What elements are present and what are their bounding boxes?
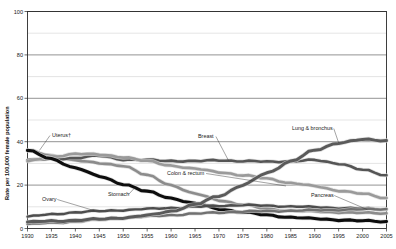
x-tick-label: 1945 bbox=[93, 233, 105, 239]
x-tick-label: 1950 bbox=[117, 233, 129, 239]
series-label-uterus: Uterus† bbox=[52, 132, 71, 138]
y-tick-label: 0 bbox=[20, 226, 23, 232]
x-tick-label: 1960 bbox=[165, 233, 177, 239]
x-tick-label: 1980 bbox=[261, 233, 273, 239]
x-tick-label: 1930 bbox=[21, 233, 33, 239]
y-tick-label: 80 bbox=[17, 52, 23, 58]
x-tick-label: 1985 bbox=[285, 233, 297, 239]
x-tick-label: 1995 bbox=[332, 233, 344, 239]
x-tick-label: 1940 bbox=[69, 233, 81, 239]
series-label-colon-rectum: Colon & rectum bbox=[167, 170, 205, 176]
x-tick-label: 2005 bbox=[380, 233, 392, 239]
series-label-lung-bronchus: Lung & bronchus bbox=[292, 125, 333, 131]
cancer-death-rates-chart: 020406080100 193019351940194519501955196… bbox=[0, 0, 396, 249]
series-label-ovary: Ovary bbox=[42, 196, 57, 202]
series-label-pancreas: Pancreas bbox=[311, 192, 334, 198]
y-tick-label: 20 bbox=[17, 182, 23, 188]
x-tick-label: 1975 bbox=[237, 233, 249, 239]
x-tick-label: 1965 bbox=[189, 233, 201, 239]
x-tick-label: 2000 bbox=[356, 233, 368, 239]
x-tick-label: 1970 bbox=[213, 233, 225, 239]
series-label-stomach: Stomach bbox=[108, 191, 129, 197]
y-axis-title: Rate per 100,000 female population bbox=[4, 106, 10, 200]
x-tick-label: 1990 bbox=[308, 233, 320, 239]
y-tick-label: 40 bbox=[17, 139, 23, 145]
x-tick-label: 1935 bbox=[45, 233, 57, 239]
y-tick-label: 100 bbox=[14, 9, 23, 15]
svg-text:Rate per 100,000 female popula: Rate per 100,000 female population bbox=[4, 106, 10, 200]
series-label-breast: Breast bbox=[198, 133, 214, 139]
x-tick-label: 1955 bbox=[141, 233, 153, 239]
chart-canvas: 020406080100 193019351940194519501955196… bbox=[0, 0, 396, 249]
y-tick-label: 60 bbox=[17, 95, 23, 101]
